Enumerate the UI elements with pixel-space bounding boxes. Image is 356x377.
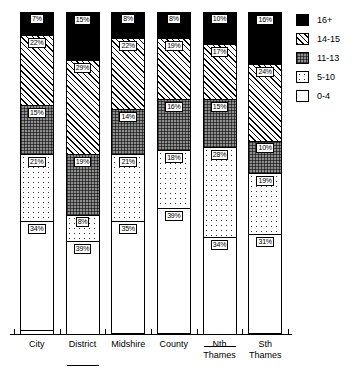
category-label-line: Sth bbox=[242, 339, 288, 350]
legend-label: 14-15 bbox=[317, 34, 340, 44]
bar-slot: 16%24%10%19%31% bbox=[242, 12, 288, 334]
bar-segment[interactable]: 22% bbox=[112, 38, 144, 109]
segment-value-label: 39% bbox=[74, 244, 91, 254]
stacked-bar[interactable]: 8%22%14%21%35% bbox=[111, 12, 145, 334]
bar-segment[interactable]: 8% bbox=[158, 12, 190, 38]
segment-value-label: 15% bbox=[74, 15, 91, 25]
legend-item[interactable]: 14-15 bbox=[296, 33, 354, 45]
bar-slot: 7%22%15%21%34% bbox=[14, 12, 60, 334]
bar-segment[interactable]: 8% bbox=[67, 215, 99, 241]
bar-slot: 8%19%16%18%39% bbox=[151, 12, 197, 334]
bar-segment[interactable]: 35% bbox=[112, 221, 144, 334]
bar-segment[interactable]: 17% bbox=[204, 44, 236, 99]
segment-value-label: 34% bbox=[28, 224, 45, 234]
bar-slot: 8%22%14%21%35% bbox=[105, 12, 151, 334]
category-label-nth-thames: NthThames bbox=[197, 339, 243, 361]
category-label-line: Thames bbox=[242, 350, 288, 361]
legend-label: 0-4 bbox=[317, 91, 330, 101]
category-label-line: Thames bbox=[197, 350, 243, 361]
legend-label: 11-13 bbox=[317, 53, 339, 63]
bar-segment[interactable]: 18% bbox=[158, 150, 190, 208]
segment-value-label: 15% bbox=[211, 102, 228, 112]
bar-segment[interactable]: 21% bbox=[21, 154, 53, 222]
segment-value-label: 14% bbox=[119, 112, 136, 122]
segment-value-label: 8% bbox=[121, 14, 135, 24]
category-label-line: Nth bbox=[197, 339, 243, 350]
legend-item[interactable]: 5-10 bbox=[296, 71, 354, 83]
segment-value-label: 15% bbox=[28, 108, 45, 118]
segment-value-label: 8% bbox=[167, 14, 181, 24]
bars-container: 7%22%15%21%34%15%29%19%8%39%8%22%14%21%3… bbox=[14, 12, 288, 334]
bar-segment[interactable]: 31% bbox=[249, 234, 281, 334]
bar-segment[interactable]: 24% bbox=[249, 64, 281, 141]
stacked-bar[interactable]: 15%29%19%8%39% bbox=[66, 12, 100, 334]
segment-value-label: 22% bbox=[28, 38, 45, 48]
bar-segment[interactable]: 14% bbox=[112, 109, 144, 154]
bar-segment[interactable]: 15% bbox=[21, 105, 53, 153]
bar-segment[interactable]: 28% bbox=[204, 147, 236, 237]
bar-slot: 15%29%19%8%39% bbox=[60, 12, 106, 334]
segment-value-label: 16% bbox=[256, 15, 273, 25]
category-labels: CityDistrictMidshireCountyNthThamesSthTh… bbox=[14, 339, 288, 361]
bar-segment[interactable]: 8% bbox=[112, 12, 144, 38]
legend-swatch-5-10 bbox=[296, 71, 309, 83]
legend-swatch-0-4 bbox=[296, 90, 309, 102]
segment-value-label: 21% bbox=[28, 157, 45, 167]
x-axis-line bbox=[10, 334, 292, 335]
segment-value-label: 10% bbox=[256, 143, 273, 153]
stacked-bar[interactable]: 10%17%15%28%34% bbox=[203, 12, 237, 334]
bar-segment[interactable]: 19% bbox=[67, 154, 99, 215]
bar-segment[interactable]: 7% bbox=[21, 12, 53, 35]
category-label-district: District bbox=[60, 339, 106, 361]
bar-segment[interactable]: 39% bbox=[158, 208, 190, 334]
legend-swatch-14-15 bbox=[296, 33, 309, 45]
segment-value-label: 34% bbox=[211, 240, 228, 250]
segment-value-label: 19% bbox=[165, 41, 182, 51]
bar-segment[interactable]: 34% bbox=[21, 221, 53, 330]
chart-legend: 16+14-1511-135-100-4 bbox=[296, 14, 354, 109]
category-label-line: Midshire bbox=[105, 339, 151, 350]
segment-value-label: 19% bbox=[256, 176, 273, 186]
plot-area: 7%22%15%21%34%15%29%19%8%39%8%22%14%21%3… bbox=[14, 12, 288, 334]
segment-value-label: 24% bbox=[256, 67, 273, 77]
legend-swatch-16plus bbox=[296, 14, 309, 26]
bar-segment[interactable]: 19% bbox=[158, 38, 190, 99]
stacked-bar[interactable]: 16%24%10%19%31% bbox=[248, 12, 282, 334]
legend-label: 16+ bbox=[317, 15, 332, 25]
bar-segment[interactable]: 15% bbox=[67, 12, 99, 60]
stacked-bar[interactable]: 7%22%15%21%34% bbox=[20, 12, 54, 334]
segment-value-label: 17% bbox=[211, 47, 228, 57]
legend-item[interactable]: 0-4 bbox=[296, 90, 354, 102]
bar-slot: 10%17%15%28%34% bbox=[197, 12, 243, 334]
stacked-bar[interactable]: 8%19%16%18%39% bbox=[157, 12, 191, 334]
legend-item[interactable]: 16+ bbox=[296, 14, 354, 26]
category-label-midshire: Midshire bbox=[105, 339, 151, 361]
segment-value-label: 31% bbox=[256, 237, 273, 247]
bar-segment[interactable]: 10% bbox=[249, 141, 281, 173]
segment-value-label: 21% bbox=[119, 157, 136, 167]
category-label-sth-thames: SthThames bbox=[242, 339, 288, 361]
segment-value-label: 16% bbox=[165, 102, 182, 112]
bar-segment[interactable]: 16% bbox=[249, 12, 281, 64]
bar-segment[interactable]: 29% bbox=[67, 60, 99, 153]
segment-value-label: 8% bbox=[76, 217, 90, 227]
legend-swatch-11-13 bbox=[296, 52, 309, 64]
segment-value-label: 39% bbox=[165, 211, 182, 221]
category-label-line: County bbox=[151, 339, 197, 350]
category-label-line: City bbox=[14, 339, 60, 350]
bar-segment[interactable]: 22% bbox=[21, 35, 53, 106]
bar-segment[interactable]: 19% bbox=[249, 173, 281, 234]
bar-segment[interactable]: 15% bbox=[204, 99, 236, 147]
bar-segment[interactable]: 21% bbox=[112, 154, 144, 222]
segment-value-label: 19% bbox=[74, 157, 91, 167]
legend-item[interactable]: 11-13 bbox=[296, 52, 354, 64]
segment-value-label: 22% bbox=[119, 41, 136, 51]
bar-segment[interactable]: 10% bbox=[204, 12, 236, 44]
category-label-city: City bbox=[14, 339, 60, 361]
segment-value-label: 18% bbox=[165, 153, 182, 163]
segment-value-label: 28% bbox=[211, 150, 228, 160]
category-label-line: District bbox=[60, 339, 106, 350]
legend-label: 5-10 bbox=[317, 72, 335, 82]
bar-segment[interactable]: 16% bbox=[158, 99, 190, 151]
segment-value-label: 10% bbox=[211, 14, 228, 24]
